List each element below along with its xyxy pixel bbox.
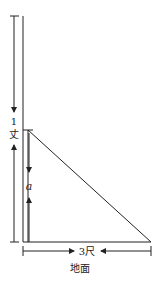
- diagram-canvas: 1 丈 a 3尺 地面: [0, 0, 155, 283]
- height-label-number: 1: [11, 116, 17, 127]
- a-label: a: [26, 180, 33, 193]
- ground-label: 地面: [70, 262, 90, 274]
- height-label-unit: 丈: [9, 129, 19, 140]
- broken-part-line: [28, 130, 151, 242]
- base-label: 3尺: [79, 246, 95, 257]
